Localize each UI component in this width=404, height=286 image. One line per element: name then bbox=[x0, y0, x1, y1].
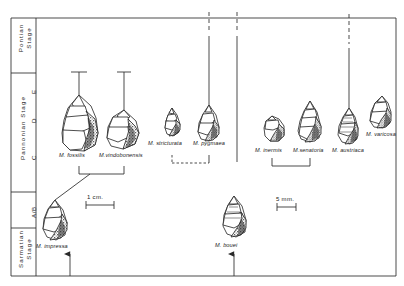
zone-label-d: D bbox=[31, 118, 37, 123]
taxon-label-m-senatoria: M.senatoria bbox=[293, 148, 324, 154]
shell-m-austriaca bbox=[338, 108, 358, 144]
taxon-label-m-fossilis: M. fossilis bbox=[59, 153, 85, 159]
scalebar-5mm-mark bbox=[277, 203, 296, 211]
connector-bracket-inermis-senatoria bbox=[272, 158, 310, 166]
shell-m-stricturata bbox=[165, 108, 180, 136]
stage-label-pannonian: Pannonian Stage bbox=[19, 73, 27, 183]
connector-bracket-stricturata-pygmaea bbox=[172, 155, 209, 163]
shell-m-vindobonensis bbox=[107, 110, 139, 149]
taxon-label-m-inermis: M. inermis bbox=[255, 148, 282, 154]
taxon-label-m-pygmaea: M. pygmaea bbox=[193, 141, 225, 147]
taxon-label-m-varicosa: M. varicosa bbox=[366, 132, 396, 138]
lineage-line-vindobonensis bbox=[117, 72, 131, 110]
stage-label-pontian: Pontian Stage bbox=[17, 14, 34, 62]
shell-m-varicosa bbox=[370, 96, 391, 128]
shell-m-fossilis bbox=[62, 95, 98, 151]
stage-label-sarmatian: Sarmatian Stage bbox=[17, 226, 34, 272]
shell-m-impressa bbox=[43, 200, 67, 240]
taxon-label-m-impressa: M. impressa bbox=[36, 244, 68, 250]
lineage-line-fossilis bbox=[71, 72, 87, 95]
shell-m-inermis bbox=[264, 116, 284, 141]
taxon-label-m-austriaca: M. austriaca bbox=[332, 148, 364, 154]
scalebar-label-5mm: 5 mm. bbox=[276, 196, 294, 202]
shell-m-senatoria bbox=[298, 101, 321, 142]
scalebar-label-1cm: 1 cm. bbox=[87, 194, 103, 200]
zone-label-ab: A/B bbox=[31, 206, 37, 218]
zone-label-c: C bbox=[31, 155, 37, 160]
shell-m-bouei bbox=[223, 196, 246, 237]
zone-label-e: E bbox=[31, 89, 37, 94]
taxon-label-m-stricturata: M. stricturata bbox=[148, 141, 182, 147]
scalebar-1cm-mark bbox=[86, 201, 114, 209]
taxon-label-m-vindobonensis: M.vindobonensis bbox=[99, 153, 143, 159]
shell-m-pygmaea bbox=[198, 105, 219, 141]
stratigraphic-range-figure: Pontian Stage Pannonian Stage Sarmatian … bbox=[0, 0, 404, 286]
taxon-label-m-bouei: M. bouei bbox=[215, 243, 237, 249]
